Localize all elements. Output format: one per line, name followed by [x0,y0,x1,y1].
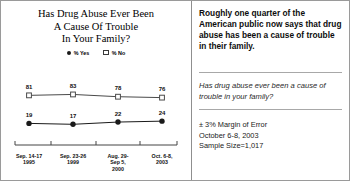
data-point-label: 24 [159,110,166,116]
legend-item-yes: % Yes [67,50,90,56]
chart-title-line-2: A Cause Of Trouble [7,21,185,34]
x-axis-tick-label-line: 1999 [60,159,86,165]
divider-below-question [199,109,342,110]
series-no [27,92,165,100]
plot-area: 8183787619172224 [1,60,191,152]
data-point-label: 17 [70,113,77,119]
data-point-label: 78 [115,85,122,91]
chart-title: Has Drug Abuse Ever Been A Cause Of Trou… [7,8,185,46]
headline-text: Roughly one quarter of the American publ… [199,8,342,52]
data-point-label: 76 [159,86,166,92]
x-axis-tick-labels: Sep. 14-171995Sep. 23-261999Aug. 29-Sep … [1,153,191,181]
x-axis-tick-label-line: 1995 [16,159,42,165]
x-axis-tick-label-line: 2003 [152,159,173,165]
data-point-label: 83 [70,83,77,89]
margin-of-error-text: ± 3% Margin of Error [199,120,342,131]
chart-legend: % Yes % No [1,50,191,56]
legend-label-yes: % Yes [74,50,90,56]
legend-marker-hollow-square-icon [103,50,109,56]
data-point-label: 81 [26,84,33,90]
legend-item-no: % No [103,50,125,56]
field-dates-text: October 6-8, 2003 [199,131,342,142]
x-axis-tick-label: Sep. 14-171995 [16,153,42,166]
chart-x-axis [15,141,177,145]
poll-question-text: Has drug abuse ever been a cause of trou… [199,80,342,102]
x-axis-tick-label: Aug. 29-Sep 5,2000 [108,153,129,172]
x-axis-tick-label-line: 2000 [108,166,129,172]
sample-size-text: Sample Size=1,017 [199,141,342,152]
poll-graphic: Has Drug Abuse Ever Been A Cause Of Trou… [0,0,350,181]
chart-title-line-1: Has Drug Abuse Ever Been [7,8,185,21]
footer-stats: ± 3% Margin of Error October 6-8, 2003 S… [199,120,342,152]
series-yes [26,118,164,127]
chart-plot-svg [1,60,191,152]
chart-title-line-3: In Your Family? [7,33,185,46]
summary-panel: Roughly one quarter of the American publ… [192,1,350,180]
data-point-label: 19 [26,112,33,118]
x-axis-tick-label: Sep. 23-261999 [60,153,86,166]
x-axis-tick-label: Oct. 6-8,2003 [152,153,173,166]
x-axis-tick-label-line: Sep 5, [108,159,129,165]
divider-above-question [199,72,342,73]
legend-marker-filled-circle-icon [67,51,71,55]
data-point-label: 22 [115,111,122,117]
chart-panel: Has Drug Abuse Ever Been A Cause Of Trou… [1,1,191,180]
legend-label-no: % No [112,50,125,56]
